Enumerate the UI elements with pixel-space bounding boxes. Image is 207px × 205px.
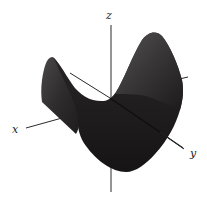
z-axis-label: z	[106, 10, 112, 21]
y-axis-label: y	[190, 148, 196, 159]
saddle-surface-figure: z x y	[0, 0, 207, 205]
x-axis-label: x	[12, 124, 18, 135]
saddle-surface-plot	[0, 0, 207, 205]
